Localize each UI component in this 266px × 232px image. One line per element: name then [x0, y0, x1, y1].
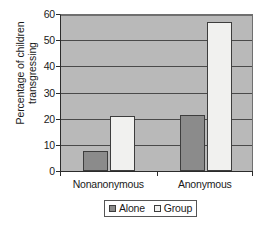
chart-legend: AloneGroup [104, 200, 197, 217]
y-axis-tick-label: 40 [34, 61, 55, 71]
legend-swatch-group-icon [154, 205, 161, 212]
bar-series-container [61, 15, 252, 171]
y-axis-tick-label: 30 [34, 88, 55, 98]
y-axis-tick-label: 60 [34, 9, 55, 19]
bar-chart-figure: Percentage of children transgressing 010… [0, 0, 266, 232]
x-axis-tick-mark [157, 172, 158, 176]
legend-swatch-alone-icon [109, 205, 116, 212]
x-axis-tick-mark [252, 172, 253, 176]
legend-label: Alone [119, 202, 145, 214]
y-axis-tick-label: 20 [34, 114, 55, 124]
bar-group-nonanonymous [110, 116, 135, 171]
bar-alone-anonymous [180, 115, 205, 171]
legend-entry-group: Group [154, 202, 192, 214]
y-axis-tick-labels: 0102030405060 [34, 14, 55, 172]
x-axis-tick-mark [60, 172, 61, 176]
x-axis-category-labels: NonanonymousAnonymous [60, 178, 253, 192]
bar-group-anonymous [207, 22, 232, 171]
y-axis-tick-label: 0 [34, 166, 55, 176]
y-axis-tick-label: 50 [34, 35, 55, 45]
x-axis-category-label: Anonymous [150, 178, 260, 190]
y-axis-tick-label: 10 [34, 140, 55, 150]
x-axis-category-label: Nonanonymous [53, 178, 163, 190]
legend-label: Group [164, 202, 192, 214]
x-axis-tick-marks [60, 172, 253, 177]
plot-area [60, 14, 253, 171]
bar-alone-nonanonymous [83, 151, 108, 171]
legend-entry-alone: Alone [109, 202, 145, 214]
